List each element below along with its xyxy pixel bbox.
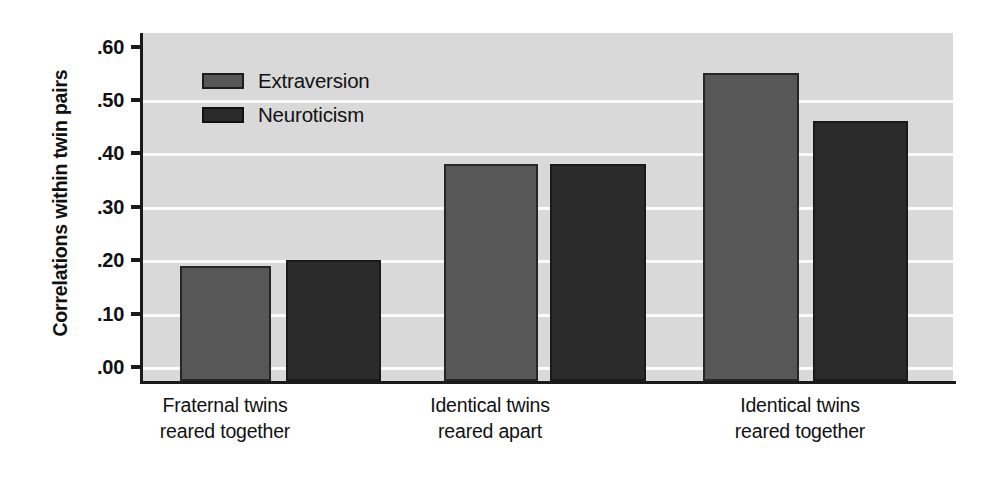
y-tick-label: .60 (56, 35, 124, 58)
y-tick-label: .30 (56, 195, 124, 218)
x-axis-label-group-0: Fraternal twinsreared together (115, 392, 335, 444)
x-axis-label-line: Identical twins (380, 392, 600, 418)
legend-item-extraversion: Extraversion (202, 64, 442, 98)
bar-neuroticism-2 (813, 121, 908, 381)
y-axis-tick-labels: .60.50.40.30.20.10.00 (56, 0, 124, 485)
y-tick-label: .20 (56, 249, 124, 272)
legend-label-neuroticism: Neuroticism (258, 103, 364, 127)
x-axis-label-line: Identical twins (690, 392, 910, 418)
bar-neuroticism-1 (550, 164, 646, 381)
y-tick-label: .10 (56, 302, 124, 325)
legend-swatch-extraversion (202, 73, 244, 89)
y-tick-label: .00 (56, 356, 124, 379)
bar-extraversion-2 (703, 73, 799, 381)
x-axis-label-line: reared apart (380, 418, 600, 444)
x-axis-line (140, 381, 956, 384)
x-axis-label-group-1: Identical twinsreared apart (380, 392, 600, 444)
bar-extraversion-1 (444, 164, 538, 381)
chart-legend: Extraversion Neuroticism (202, 64, 442, 132)
legend-label-extraversion: Extraversion (258, 69, 370, 93)
bar-chart-figure: Correlations within twin pairs .60.50.40… (0, 0, 989, 485)
legend-swatch-neuroticism (202, 107, 244, 123)
bar-neuroticism-0 (286, 260, 381, 381)
x-axis-label-group-2: Identical twinsreared together (690, 392, 910, 444)
x-axis-category-labels: Fraternal twinsreared togetherIdentical … (140, 392, 960, 472)
bar-extraversion-0 (180, 266, 271, 381)
x-axis-label-line: Fraternal twins (115, 392, 335, 418)
y-tick-label: .40 (56, 142, 124, 165)
x-axis-label-line: reared together (690, 418, 910, 444)
x-axis-label-line: reared together (115, 418, 335, 444)
legend-item-neuroticism: Neuroticism (202, 98, 442, 132)
y-tick-label: .50 (56, 89, 124, 112)
